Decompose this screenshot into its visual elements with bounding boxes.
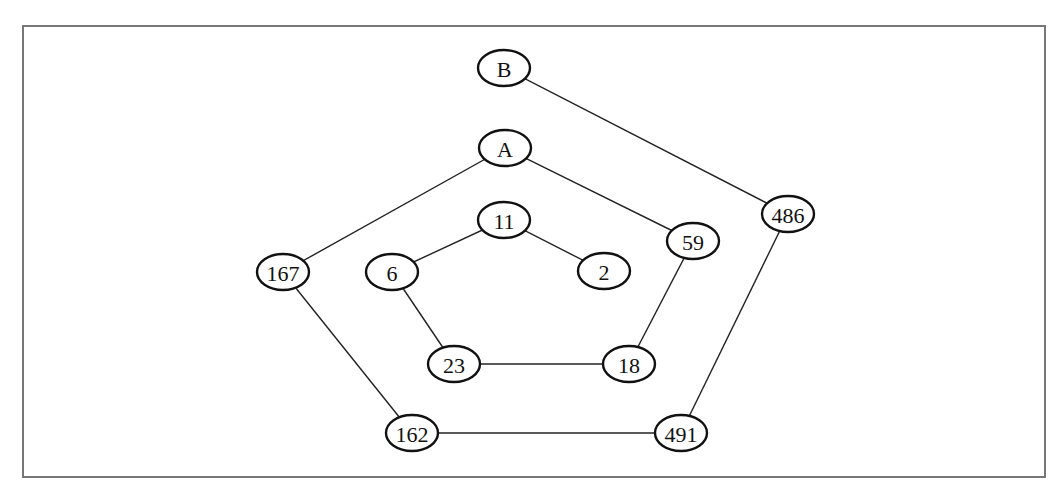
node-486: 486 [762, 196, 814, 232]
node-59: 59 [667, 223, 719, 259]
node-491: 491 [655, 415, 707, 451]
node-167: 167 [257, 254, 309, 290]
node-label: A [497, 137, 513, 162]
node-2: 2 [578, 253, 630, 289]
node-label: 23 [443, 353, 465, 378]
node-label: B [497, 57, 512, 82]
node-label: 486 [772, 203, 805, 228]
node-label: 6 [387, 261, 398, 286]
node-162: 162 [386, 415, 438, 451]
node-label: 162 [396, 422, 429, 447]
edge-A-59 [505, 148, 693, 241]
graph-diagram: BA1116762594862318162491 [0, 0, 1063, 504]
node-B: B [478, 50, 530, 86]
edge-162-167 [283, 272, 412, 433]
node-A: A [479, 130, 531, 166]
node-label: 59 [682, 230, 704, 255]
node-label: 18 [618, 353, 640, 378]
node-11: 11 [478, 202, 530, 238]
node-label: 167 [267, 261, 300, 286]
node-6: 6 [366, 254, 418, 290]
node-label: 11 [493, 209, 514, 234]
nodes-layer: BA1116762594862318162491 [257, 50, 814, 451]
edge-B-486 [504, 68, 788, 214]
edge-59-18 [629, 241, 693, 364]
node-label: 491 [665, 422, 698, 447]
node-23: 23 [428, 346, 480, 382]
node-label: 2 [599, 260, 610, 285]
node-18: 18 [603, 346, 655, 382]
